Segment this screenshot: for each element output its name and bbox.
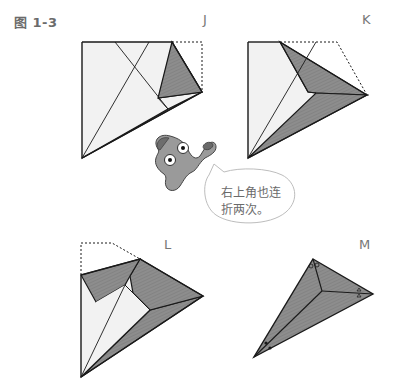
diagram-step-l — [81, 243, 203, 377]
diagram-step-k — [248, 42, 367, 158]
folding-diagrams — [0, 0, 398, 383]
diagram-step-m — [254, 259, 373, 357]
angle-mark-dot — [264, 341, 267, 344]
diagram-step-j — [82, 42, 202, 158]
speech-line-1: 右上角也连 — [221, 185, 293, 202]
speech-line-2: 折两次。 — [221, 202, 293, 219]
speech-bubble-text: 右上角也连 折两次。 — [221, 185, 293, 219]
angle-mark-dot — [268, 346, 271, 349]
